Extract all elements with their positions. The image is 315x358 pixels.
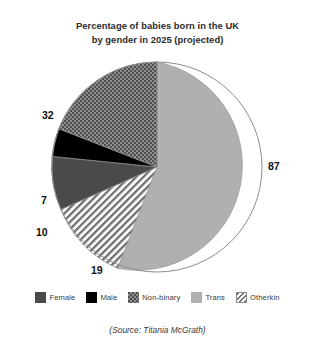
chart-title: Percentage of babies born in the UK by g… <box>0 19 315 46</box>
pie-value-label-male: 7 <box>41 194 47 206</box>
legend-label-otherkin: Otherkin <box>250 293 280 302</box>
legend-item-non-binary: Non-binary <box>128 292 180 303</box>
pie-value-label-female: 10 <box>36 226 48 238</box>
legend-swatch-trans-icon <box>191 292 202 303</box>
legend-item-female: Female <box>35 292 75 303</box>
chart-title-line-1: Percentage of babies born in the UK <box>0 19 315 33</box>
chart-title-line-2: by gender in 2025 (projected) <box>0 33 315 47</box>
legend-label-male: Male <box>100 293 117 302</box>
legend-swatch-non-binary-icon <box>128 292 139 303</box>
legend-item-otherkin: Otherkin <box>236 292 280 303</box>
legend-swatch-male-icon <box>86 292 97 303</box>
legend-swatch-otherkin-icon <box>236 292 247 303</box>
legend-item-male: Male <box>86 292 117 303</box>
chart-source-caption: (Source: Titania McGrath) <box>0 325 315 335</box>
legend-item-trans: Trans <box>191 292 225 303</box>
legend-swatch-female-icon <box>35 292 46 303</box>
chart-page: Percentage of babies born in the UK by g… <box>0 0 315 358</box>
legend-label-female: Female <box>49 293 75 302</box>
pie-value-label-otherkin: 19 <box>91 264 103 276</box>
pie-value-label-trans: 87 <box>268 160 280 172</box>
pie-value-label-non-binary: 32 <box>42 109 54 121</box>
pie-chart: 87 19 10 7 32 <box>0 50 315 290</box>
legend-label-non-binary: Non-binary <box>142 293 180 302</box>
chart-legend: Female Male Non-binary Trans Otherkin <box>0 292 315 303</box>
legend-label-trans: Trans <box>205 293 225 302</box>
